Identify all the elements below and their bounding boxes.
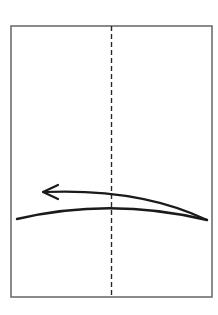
folding-diagram [0, 0, 218, 315]
